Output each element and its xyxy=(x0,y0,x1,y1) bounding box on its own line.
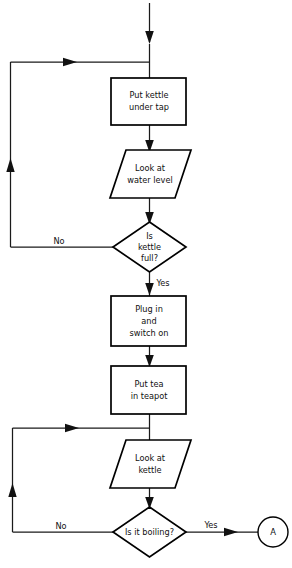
node-is-kettle-full-line3: full? xyxy=(141,253,158,263)
arrowhead-entry-top xyxy=(145,31,154,44)
arrowhead-loop1-up xyxy=(6,158,14,172)
node-look-at-kettle-line1: Look at xyxy=(135,453,166,463)
node-put-kettle-under-tap-line1: Put kettle xyxy=(129,90,168,100)
arrowhead-kettlefull-yes xyxy=(145,283,154,296)
node-connector-a-label: A xyxy=(270,527,276,537)
node-plug-in-and-switch-on-line2: and xyxy=(141,316,156,326)
branch-label-kettle-full-yes: Yes xyxy=(155,278,169,288)
arrowhead-loop2-up xyxy=(8,483,16,497)
node-look-at-water-level-line1: Look at xyxy=(135,163,166,173)
arrowhead-boiling-yes xyxy=(224,528,238,536)
branch-label-kettle-full-no: No xyxy=(53,236,64,246)
node-is-kettle-full-line1: Is xyxy=(146,231,153,241)
node-put-tea-in-teapot-line1: Put tea xyxy=(134,379,163,389)
flowchart-canvas: Put kettle under tap Look at water level… xyxy=(0,0,292,568)
flowchart-svg: Put kettle under tap Look at water level… xyxy=(0,0,292,568)
node-plug-in-and-switch-on-line3: switch on xyxy=(130,328,169,338)
arrowhead-loop1-right xyxy=(63,58,77,66)
branch-label-boiling-no: No xyxy=(55,521,66,531)
node-look-at-water-level-line2: water level xyxy=(127,175,172,185)
node-put-kettle-under-tap-line2: under tap xyxy=(129,102,169,112)
node-put-tea-in-teapot-line2: in teapot xyxy=(131,391,169,401)
node-is-it-boiling-line1: Is it boiling? xyxy=(125,527,174,537)
node-plug-in-and-switch-on-line1: Plug in xyxy=(135,304,163,314)
node-is-kettle-full-line2: kettle xyxy=(138,242,161,252)
branch-label-boiling-yes: Yes xyxy=(203,520,217,530)
node-look-at-kettle-line2: kettle xyxy=(138,465,161,475)
arrowhead-loop2-right xyxy=(65,424,79,432)
